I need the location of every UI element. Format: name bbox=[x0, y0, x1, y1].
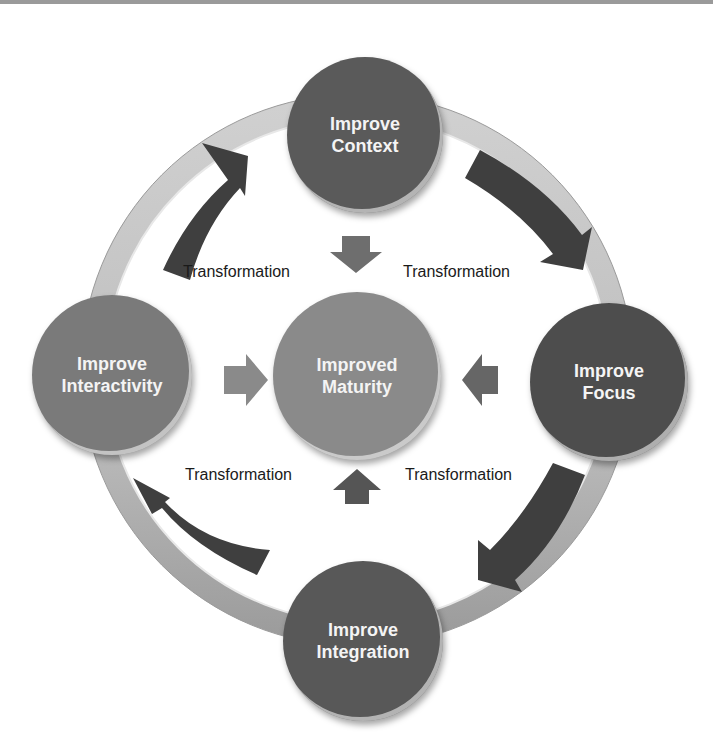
inner-arrow-from-interactivity bbox=[224, 354, 268, 406]
node-integration-label-line2: Integration bbox=[317, 641, 410, 663]
node-interactivity-label-line1: Improve bbox=[61, 353, 162, 375]
center-node-label-line2: Maturity bbox=[316, 376, 397, 398]
inner-arrow-from-focus bbox=[462, 354, 498, 406]
transformation-label-top-right: Transformation bbox=[403, 263, 510, 281]
transformation-label-bottom-left: Transformation bbox=[185, 466, 292, 484]
node-improve-interactivity: Improve Interactivity bbox=[32, 295, 192, 455]
node-context-label-line1: Improve bbox=[330, 113, 400, 135]
node-interactivity-label-line2: Interactivity bbox=[61, 375, 162, 397]
node-context-label-line2: Context bbox=[330, 135, 400, 157]
node-focus-label-line1: Improve bbox=[574, 360, 644, 382]
node-integration-label-line1: Improve bbox=[317, 619, 410, 641]
node-improve-focus: Improve Focus bbox=[530, 303, 688, 461]
transformation-label-bottom-right: Transformation bbox=[405, 466, 512, 484]
node-focus-label-line2: Focus bbox=[574, 382, 644, 404]
inner-arrow-from-context bbox=[330, 236, 382, 273]
center-node-improved-maturity: Improved Maturity bbox=[273, 292, 441, 460]
node-improve-context: Improve Context bbox=[287, 57, 443, 213]
center-node-label-line1: Improved bbox=[316, 354, 397, 376]
inner-arrow-from-integration bbox=[333, 469, 381, 504]
node-improve-integration: Improve Integration bbox=[283, 561, 443, 721]
transformation-label-top-left: Transformation bbox=[183, 263, 290, 281]
